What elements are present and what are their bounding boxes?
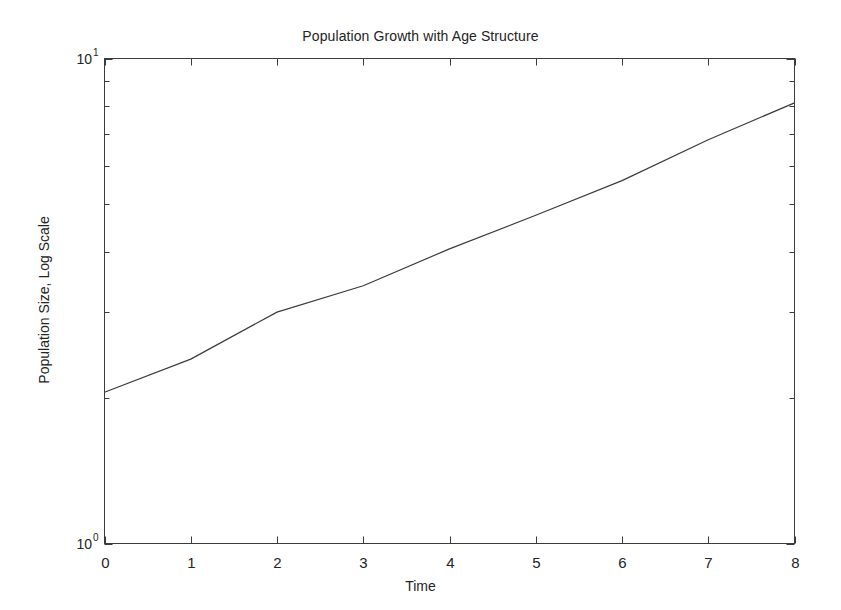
x-tick-marks	[106, 59, 796, 544]
y-tick-label: 10	[76, 51, 92, 67]
x-tick-label: 4	[446, 554, 454, 571]
x-tick-label: 3	[359, 554, 367, 571]
x-tick-label: 0	[101, 554, 109, 571]
y-tick-labels: 101100	[76, 47, 99, 552]
y-tick-exponent: 1	[93, 47, 99, 58]
axes-frame	[105, 59, 795, 544]
x-tick-label: 6	[618, 554, 626, 571]
y-tick-exponent: 0	[93, 532, 99, 543]
x-tick-label: 8	[791, 554, 799, 571]
x-tick-labels: 012345678	[101, 554, 799, 571]
y-tick-marks	[105, 60, 795, 545]
plot-area: 012345678 101100	[0, 0, 841, 610]
y-tick-label: 10	[76, 536, 92, 552]
data-line-population	[105, 103, 795, 392]
figure-canvas: Population Growth with Age Structure Pop…	[0, 0, 841, 610]
x-tick-label: 5	[532, 554, 540, 571]
x-tick-label: 1	[187, 554, 195, 571]
x-tick-label: 7	[704, 554, 712, 571]
x-tick-label: 2	[273, 554, 281, 571]
